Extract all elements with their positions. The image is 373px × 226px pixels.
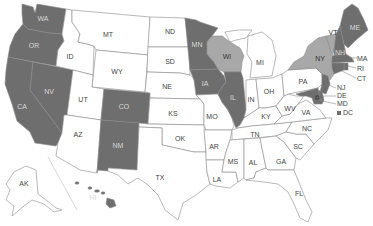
state-CT[interactable] — [332, 63, 344, 74]
state-label-sc: SC — [293, 143, 303, 150]
state-label-la: LA — [213, 176, 222, 183]
state-label-mn: MN — [192, 41, 203, 48]
state-label-or: OR — [29, 42, 40, 49]
state-label-ut: UT — [78, 96, 88, 103]
dc-legend-square — [337, 111, 341, 115]
us-states-map: WAORCANVIDMTWYUTAZCONMNDSDNEKSOKTXMNIAMO… — [0, 0, 373, 226]
state-label-oh: OH — [264, 88, 275, 95]
state-label-ct: CT — [357, 75, 367, 82]
state-label-nm: NM — [113, 142, 124, 149]
state-label-nc: NC — [302, 125, 312, 132]
state-RI[interactable] — [344, 63, 348, 70]
state-label-me: ME — [350, 24, 361, 31]
state-NE[interactable] — [145, 72, 200, 99]
state-label-in: IN — [248, 96, 255, 103]
state-label-mo: MO — [206, 113, 218, 120]
state-label-nh: NH — [335, 49, 345, 56]
state-label-va: VA — [302, 109, 311, 116]
state-label-al: AL — [249, 159, 258, 166]
state-label-ks: KS — [168, 110, 178, 117]
state-label-mi: MI — [256, 59, 264, 66]
state-label-tx: TX — [156, 174, 165, 181]
state-label-mt: MT — [103, 31, 114, 38]
state-label-ne: NE — [162, 83, 172, 90]
state-label-ok: OK — [175, 135, 185, 142]
state-label-sd: SD — [165, 58, 175, 65]
state-AK[interactable] — [6, 166, 62, 216]
state-label-nd: ND — [165, 28, 175, 35]
state-label-nv: NV — [44, 88, 54, 95]
state-label-ga: GA — [276, 158, 286, 165]
state-label-pa: PA — [299, 78, 308, 85]
state-label-ri: RI — [357, 65, 364, 72]
state-label-hi: HI — [90, 194, 97, 201]
state-label-md: MD — [337, 100, 348, 107]
state-label-fl: FL — [295, 190, 303, 197]
state-label-co: CO — [119, 103, 130, 110]
state-label-ma: MA — [357, 55, 368, 62]
state-label-ny: NY — [315, 55, 325, 62]
state-label-wv: WV — [284, 105, 296, 112]
state-label-wa: WA — [37, 15, 48, 22]
state-label-tn: TN — [250, 131, 259, 138]
state-label-ca: CA — [17, 103, 27, 110]
state-label-ms: MS — [228, 158, 239, 165]
state-label-ky: KY — [261, 113, 271, 120]
state-label-ak: AK — [19, 180, 29, 187]
state-label-az: AZ — [74, 131, 84, 138]
state-label-ia: IA — [202, 80, 209, 87]
state-label-nj: NJ — [337, 84, 346, 91]
state-label-wy: WY — [111, 68, 123, 75]
state-label-vt: VT — [329, 29, 339, 36]
state-AZ[interactable] — [56, 115, 101, 173]
state-label-id: ID — [67, 53, 74, 60]
state-label-ar: AR — [209, 143, 219, 150]
state-label-wi: WI — [223, 53, 232, 60]
state-label-il: IL — [230, 94, 236, 101]
state-label-de: DE — [337, 92, 347, 99]
state-label-dc: DC — [343, 109, 353, 116]
